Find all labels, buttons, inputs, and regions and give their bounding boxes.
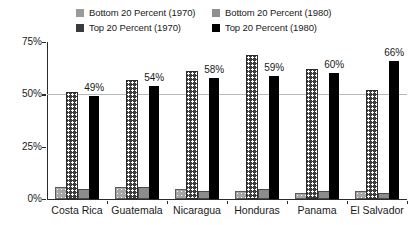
chart-legend: Bottom 20 Percent (1970) Bottom 20 Perce… — [76, 5, 366, 35]
y-tick-label: 0% — [8, 194, 42, 204]
y-tick-mark — [42, 147, 46, 148]
bar-b80 — [258, 189, 270, 199]
x-tick-separator — [167, 201, 168, 204]
bar-b80 — [318, 191, 330, 199]
dotted-dark-square-icon — [76, 24, 84, 32]
bar-t70 — [366, 90, 378, 199]
legend-item-top-20-1980: Top 20 Percent (1980) — [212, 20, 362, 35]
x-axis-label-costa-rica: Costa Rica — [47, 204, 107, 216]
y-tick-mark — [42, 42, 46, 43]
legend-item-top-20-1970: Top 20 Percent (1970) — [76, 20, 212, 35]
x-axis-label-honduras: Honduras — [227, 204, 287, 216]
y-axis: 0%25%50%75% — [0, 42, 42, 200]
y-tick-label: 50% — [8, 89, 42, 99]
bar-b70 — [355, 191, 367, 199]
bar-b70 — [175, 189, 187, 199]
bar-group: 49% — [47, 42, 107, 199]
x-axis-labels: Costa RicaGuatemalaNicaraguaHondurasPana… — [47, 204, 407, 222]
bar-b80 — [138, 187, 150, 199]
y-tick-label: 75% — [8, 37, 42, 47]
legend-item-bottom-20-1970: Bottom 20 Percent (1970) — [76, 5, 212, 20]
y-tick-mark — [42, 199, 46, 200]
x-axis-label-el-salvador: El Salvador — [347, 204, 407, 216]
y-tick-label: 25% — [8, 142, 42, 152]
bar-group: 59% — [227, 42, 287, 199]
bar-b80 — [378, 193, 390, 199]
x-tick-separator — [227, 201, 228, 204]
bar-b80 — [198, 191, 210, 199]
legend-label: Top 20 Percent (1980) — [225, 22, 317, 33]
bar-b70 — [235, 191, 247, 199]
solid-black-square-icon — [212, 24, 220, 32]
bar-b70 — [115, 187, 127, 199]
bar-t80 — [389, 61, 399, 199]
bar-t70 — [66, 92, 78, 199]
bar-t70 — [246, 55, 258, 199]
x-tick-separator — [107, 201, 108, 204]
dotted-light-square-icon — [76, 9, 84, 17]
bar-b70 — [55, 187, 67, 199]
x-tick-separator — [287, 201, 288, 204]
bar-group: 60% — [287, 42, 347, 199]
legend-item-bottom-20-1980: Bottom 20 Percent (1980) — [212, 5, 362, 20]
bar-group: 66% — [347, 42, 407, 199]
bar-t80 — [209, 78, 219, 199]
bar-b70 — [295, 193, 307, 199]
bar-value-label: 59% — [260, 63, 288, 73]
bar-value-label: 60% — [320, 60, 348, 70]
solid-gray-square-icon — [212, 9, 220, 17]
legend-label: Bottom 20 Percent (1980) — [225, 7, 331, 18]
bar-t70 — [306, 69, 318, 199]
x-axis-label-guatemala: Guatemala — [107, 204, 167, 216]
bar-t80 — [149, 86, 159, 199]
bar-value-label: 58% — [200, 65, 228, 75]
bar-group: 58% — [167, 42, 227, 199]
y-tick-mark — [42, 94, 46, 95]
plot-area: 49%54%58%59%60%66% — [47, 42, 407, 200]
x-axis-label-nicaragua: Nicaragua — [167, 204, 227, 216]
bar-t80 — [89, 96, 99, 199]
bar-t80 — [269, 76, 279, 200]
bar-t70 — [126, 80, 138, 199]
bar-b80 — [78, 189, 90, 199]
x-tick-separator — [407, 201, 408, 204]
legend-label: Bottom 20 Percent (1970) — [89, 7, 195, 18]
legend-label: Top 20 Percent (1970) — [89, 22, 181, 33]
bar-t70 — [186, 71, 198, 199]
bar-group: 54% — [107, 42, 167, 199]
x-tick-separator — [347, 201, 348, 204]
bar-value-label: 49% — [80, 83, 108, 93]
x-axis-label-panama: Panama — [287, 204, 347, 216]
bar-value-label: 66% — [380, 48, 408, 58]
bar-value-label: 54% — [140, 73, 168, 83]
bar-t80 — [329, 73, 339, 199]
